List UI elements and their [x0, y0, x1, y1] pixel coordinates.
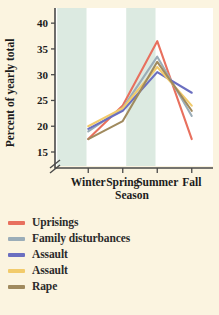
shading-band-winter: [57, 8, 86, 166]
legend-item[interactable]: Rape: [8, 279, 208, 295]
legend-item[interactable]: Family disturbances: [8, 231, 208, 247]
legend-swatch-icon: [8, 237, 25, 241]
legend-item-label: Assault: [32, 249, 68, 261]
x-tick-spring: Spring: [106, 176, 139, 189]
legend-item-label: Assault: [32, 265, 68, 277]
y-tick-20: 20: [37, 120, 49, 132]
x-tick-labels: WinterSpringSummerFall: [71, 176, 202, 189]
y-tick-25: 25: [37, 94, 49, 106]
y-tick-labels: 152025303540: [37, 17, 49, 158]
y-tick-40: 40: [37, 17, 49, 29]
legend-item[interactable]: Assault: [8, 247, 208, 263]
y-axis-title: Percent of yearly total: [4, 39, 17, 148]
x-tick-summer: Summer: [136, 176, 178, 188]
legend-item[interactable]: Uprisings: [8, 215, 208, 231]
chart-legend: UprisingsFamily disturbancesAssaultAssau…: [8, 215, 208, 295]
legend-item-label: Family disturbances: [32, 233, 130, 245]
y-tick-30: 30: [37, 69, 49, 81]
legend-item-label: Rape: [32, 281, 57, 293]
legend-item[interactable]: Assault: [8, 263, 208, 279]
chart-figure: 152025303540 WinterSpringSummerFall Perc…: [0, 0, 219, 315]
x-tick-fall: Fall: [182, 176, 201, 188]
x-axis-title: Season: [115, 189, 149, 201]
legend-item-label: Uprisings: [32, 217, 78, 229]
legend-swatch-icon: [8, 253, 25, 257]
y-tick-15: 15: [37, 146, 49, 158]
legend-swatch-icon: [8, 285, 25, 289]
y-tick-35: 35: [37, 43, 49, 55]
x-tick-winter: Winter: [71, 176, 106, 188]
season-line-chart: 152025303540 WinterSpringSummerFall Perc…: [0, 0, 219, 210]
chart-plot-container: 152025303540 WinterSpringSummerFall Perc…: [0, 0, 219, 210]
legend-swatch-icon: [8, 269, 25, 273]
legend-swatch-icon: [8, 221, 25, 225]
